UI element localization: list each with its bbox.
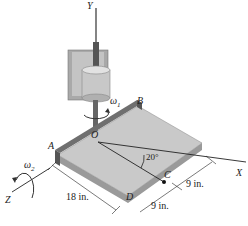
omega2-label: ω2 [24,160,35,174]
omega2-subscript: 2 [31,165,35,173]
omega1-subscript: 1 [117,101,121,109]
cylinder-top [82,66,110,74]
point-d-label: D [126,192,133,202]
point-c-dot [162,180,166,184]
dim-18-label: 18 in. [66,192,89,202]
x-axis-label: X [236,168,242,178]
dim-18-ext-a [48,162,56,170]
omega2-symbol: ω [24,159,31,170]
point-b-label: B [137,96,143,106]
point-c-label: C [164,170,171,180]
plate-top [58,106,202,196]
rotating-plate-diagram [0,0,248,226]
dim-9-upper-label: 9 in. [186,179,204,189]
dim-9-lower-label: 9 in. [151,201,169,211]
point-a-label: A [48,141,54,151]
dim-18-ext-d [112,206,120,214]
angle-label: 20° [146,152,159,162]
omega2-rotation-arrow [16,173,34,198]
point-o-label: O [91,130,98,140]
omega1-symbol: ω [110,95,117,106]
y-axis-label: Y [87,1,93,11]
z-axis-label: Z [5,195,11,205]
omega1-label: ω1 [110,96,121,110]
